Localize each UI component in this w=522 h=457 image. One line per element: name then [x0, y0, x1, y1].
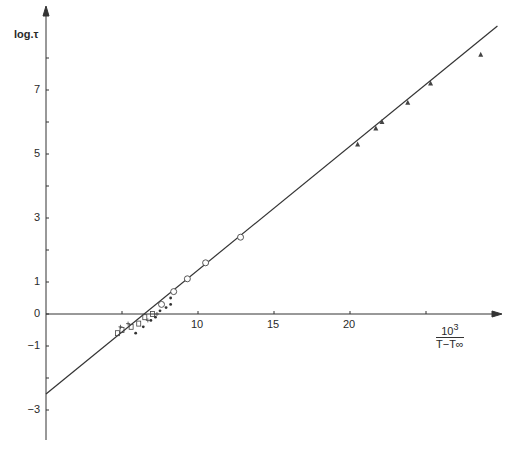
- ticks: [46, 58, 426, 410]
- chart-plot: [0, 0, 522, 457]
- triangle-marker: [478, 52, 483, 57]
- cross-marker: [118, 325, 122, 329]
- x-axis-arrow-icon: [492, 311, 502, 317]
- x-label-numerator: 10: [441, 325, 453, 337]
- y-tick-label: −3: [27, 403, 40, 415]
- x-label-denominator: T−T∞: [436, 338, 464, 350]
- circle-marker: [238, 234, 244, 240]
- data-points: [115, 52, 483, 336]
- circle-marker: [159, 301, 165, 307]
- x-axis-label: 103 T−T∞: [436, 322, 464, 350]
- y-tick-label: 7: [34, 83, 40, 95]
- dot-marker: [165, 306, 168, 309]
- x-tick-label: 15: [267, 318, 279, 330]
- dot-marker: [142, 325, 145, 328]
- dot-marker: [154, 316, 157, 319]
- circle-marker: [184, 276, 190, 282]
- y-tick-label: 3: [34, 211, 40, 223]
- y-axis-label: log.τ: [14, 28, 38, 40]
- fit-line: [46, 26, 497, 394]
- circle-marker: [171, 289, 177, 295]
- regression-line: [46, 26, 497, 394]
- square-marker: [137, 321, 141, 326]
- cross-marker: [155, 312, 159, 316]
- dot-marker: [134, 332, 137, 335]
- y-axis-arrow-icon: [43, 6, 49, 16]
- dot-marker: [159, 309, 162, 312]
- y-tick-label: 0: [34, 307, 40, 319]
- x-tick-label: 20: [343, 318, 355, 330]
- axes: [43, 6, 502, 440]
- y-tick-label: 5: [34, 147, 40, 159]
- dot-marker: [169, 297, 172, 300]
- x-label-exponent: 3: [453, 322, 458, 332]
- dot-marker: [169, 303, 172, 306]
- x-tick-label: 10: [191, 318, 203, 330]
- square-marker: [143, 315, 147, 320]
- y-tick-label: 1: [34, 275, 40, 287]
- y-tick-label: −1: [27, 339, 40, 351]
- dot-marker: [149, 319, 152, 322]
- circle-marker: [203, 260, 209, 266]
